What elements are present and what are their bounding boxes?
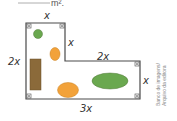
orange-ellipse-small xyxy=(50,48,60,61)
label-top-width: x xyxy=(43,10,50,21)
green-ellipse xyxy=(92,73,128,89)
label-bottom-width: 3x xyxy=(80,103,92,114)
label-left-height: 2x xyxy=(8,56,20,67)
green-circle xyxy=(34,30,43,39)
orange-ellipse-large xyxy=(58,83,79,98)
label-inner-horizontal: 2x xyxy=(97,51,109,62)
brown-rectangle xyxy=(30,59,41,90)
label-right-height: x xyxy=(142,75,149,86)
l-shape-outline xyxy=(26,23,140,99)
label-inner-vertical: x xyxy=(67,37,74,48)
image-credit: Banco de imagens/ Arquivo da editora xyxy=(155,63,167,106)
credit-line-2: Arquivo da editora xyxy=(161,65,167,106)
answer-unit: m². xyxy=(51,0,64,8)
floor-plan-diagram: m². x x 2x 2x x 3x Banco de imagens/ Arq… xyxy=(0,0,177,121)
